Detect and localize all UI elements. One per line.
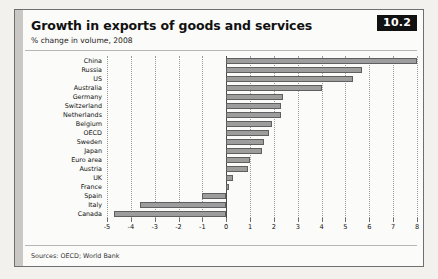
chart-header: Growth in exports of goods and services … [31, 18, 379, 45]
chart-card: Growth in exports of goods and services … [14, 9, 424, 267]
bar [226, 139, 264, 145]
gridline [369, 56, 370, 218]
axis-tick-mark [250, 218, 251, 222]
bar [226, 130, 269, 136]
category-label: Euro area [71, 156, 102, 164]
bar [140, 202, 226, 208]
axis-tick-mark [107, 218, 108, 222]
category-label: Austria [79, 165, 102, 173]
axis-tick-mark [202, 218, 203, 222]
category-label: China [84, 57, 102, 65]
category-label: Japan [84, 147, 102, 155]
chart-plot-area: ChinaRussiaUSAustraliaGermanySwitzerland… [31, 56, 417, 236]
bar [226, 94, 283, 100]
gridline [393, 56, 394, 218]
axis-tick-mark [322, 218, 323, 222]
category-label: Switzerland [65, 102, 102, 110]
category-label: Belgium [76, 120, 102, 128]
axis-tick-label: -3 [151, 223, 158, 231]
category-label: France [81, 183, 102, 191]
bar [226, 121, 271, 127]
bar [226, 58, 417, 64]
category-label: Australia [74, 84, 102, 92]
bars-canvas [107, 56, 417, 218]
axis-tick-mark [226, 218, 227, 222]
axis-tick-mark [345, 218, 346, 222]
gridline [107, 56, 108, 218]
axis-tick-label: 8 [415, 223, 419, 231]
axis-tick-mark [369, 218, 370, 222]
axis-tick-mark [298, 218, 299, 222]
axis-tick-mark [131, 218, 132, 222]
gridline [155, 56, 156, 218]
gridline [131, 56, 132, 218]
bar [226, 175, 233, 181]
category-axis-labels: ChinaRussiaUSAustraliaGermanySwitzerland… [31, 56, 105, 218]
category-label: Germany [73, 93, 102, 101]
bar [202, 193, 226, 199]
sources-note: Sources: OECD; World Bank [31, 252, 120, 260]
axis-tick-label: 3 [296, 223, 300, 231]
category-label: Spain [84, 192, 102, 200]
axis-tick-mark [393, 218, 394, 222]
bar [226, 85, 321, 91]
figure-number-badge: 10.2 [377, 15, 417, 31]
bar [226, 103, 281, 109]
category-label: Russia [81, 66, 102, 74]
screenshot-root: Growth in exports of goods and services … [0, 0, 438, 279]
axis-tick-label: 1 [248, 223, 252, 231]
category-label: US [93, 75, 102, 83]
left-gutter-strip [15, 10, 23, 266]
bar [226, 76, 352, 82]
bar [114, 211, 226, 217]
axis-tick-label: 5 [343, 223, 347, 231]
axis-tick-label: -2 [175, 223, 182, 231]
axis-tick-label: 7 [391, 223, 395, 231]
axis-tick-mark [155, 218, 156, 222]
category-label: OECD [84, 129, 102, 137]
gridline [179, 56, 180, 218]
axis-tick-label: 6 [367, 223, 371, 231]
category-label: Sweden [77, 138, 102, 146]
category-label: Netherlands [63, 111, 102, 119]
axis-tick-label: -4 [128, 223, 135, 231]
axis-tick-label: 2 [272, 223, 276, 231]
gridline [417, 56, 418, 218]
bar [226, 166, 247, 172]
page-title: Growth in exports of goods and services [31, 18, 379, 33]
axis-tick-mark [179, 218, 180, 222]
category-label: Canada [78, 210, 102, 218]
axis-tick-label: -1 [199, 223, 206, 231]
chart-subtitle: % change in volume, 2008 [31, 36, 379, 45]
bar [226, 112, 281, 118]
category-label: Italy [88, 201, 102, 209]
axis-tick-mark [274, 218, 275, 222]
axis-tick-label: 4 [320, 223, 324, 231]
axis-tick-label: 0 [224, 223, 228, 231]
category-label: UK [93, 174, 102, 182]
bar [226, 184, 228, 190]
bar [226, 148, 262, 154]
bar [226, 157, 250, 163]
axis-tick-label: -5 [104, 223, 111, 231]
axis-tick-mark [417, 218, 418, 222]
footer-divider [25, 245, 417, 246]
value-axis: -5-4-3-2-1012345678 [107, 218, 417, 236]
bar [226, 67, 362, 73]
header-divider [25, 50, 417, 51]
